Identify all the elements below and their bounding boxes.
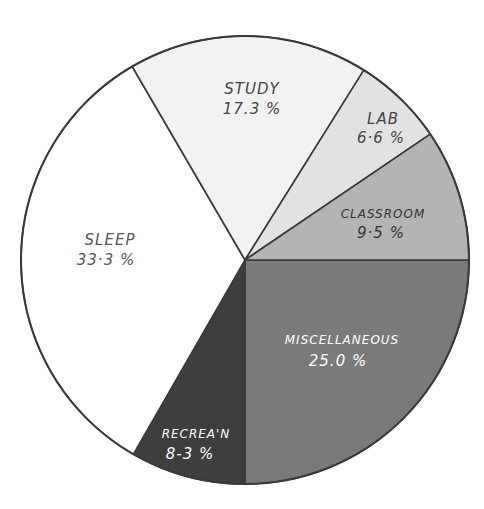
svg-text:9·5 %: 9·5 % [357, 224, 405, 242]
svg-text:LAB: LAB [367, 110, 399, 128]
svg-text:MISCELLANEOUS: MISCELLANEOUS [285, 333, 399, 347]
svg-text:STUDY: STUDY [224, 80, 280, 98]
svg-text:17.3 %: 17.3 % [223, 100, 281, 118]
svg-text:CLASSROOM: CLASSROOM [341, 207, 426, 221]
svg-text:SLEEP: SLEEP [85, 231, 136, 249]
pie-slice-miscellaneous [245, 260, 469, 484]
svg-text:25.0 %: 25.0 % [309, 352, 367, 370]
svg-text:6·6 %: 6·6 % [357, 129, 405, 147]
svg-text:RECREA'N: RECREA'N [162, 427, 231, 441]
pie-chart: STUDY 17.3 % LAB 6·6 % CLASSROOM 9·5 % S… [0, 0, 484, 509]
svg-text:8-3 %: 8-3 % [166, 445, 215, 463]
svg-text:33·3 %: 33·3 % [77, 251, 135, 269]
